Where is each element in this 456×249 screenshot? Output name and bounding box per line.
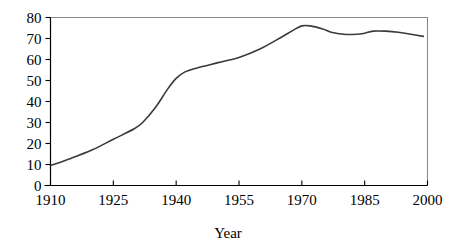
y-tick-label: 10	[27, 157, 42, 173]
x-tick-label: 1955	[224, 192, 254, 208]
y-tick-label: 30	[27, 115, 42, 131]
chart-canvas: 01020304050607080 1910192519401955197019…	[0, 0, 456, 249]
y-tick-label: 20	[27, 136, 42, 152]
x-axis-title: Year	[214, 225, 242, 241]
y-tick-label: 40	[27, 94, 42, 110]
x-tick-label: 2000	[413, 192, 443, 208]
y-tick-label: 50	[27, 73, 42, 89]
y-tick-label: 80	[27, 10, 42, 26]
y-axis-tick-labels: 01020304050607080	[27, 10, 42, 194]
x-tick-label: 1970	[287, 192, 317, 208]
line-chart: 01020304050607080 1910192519401955197019…	[0, 0, 456, 249]
y-tick-label: 70	[27, 31, 42, 47]
x-tick-label: 1925	[98, 192, 128, 208]
x-tick-label: 1985	[350, 192, 380, 208]
chart-background	[0, 0, 456, 249]
y-tick-label: 60	[27, 52, 42, 68]
x-tick-label: 1910	[36, 192, 66, 208]
x-tick-label: 1940	[161, 192, 191, 208]
